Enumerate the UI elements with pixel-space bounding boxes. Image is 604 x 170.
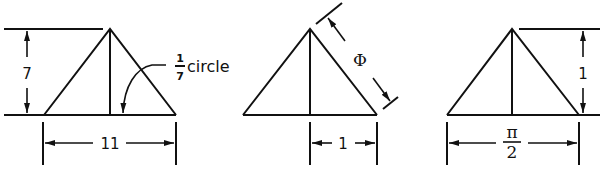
angle-note-leader — [123, 65, 166, 113]
triangle-2-slant-ext-top — [316, 3, 342, 24]
triangle-3-height-label: 1 — [578, 65, 588, 83]
triangle-2-slant-arrow-bottom — [373, 78, 390, 101]
triangle-2: Φ 1 — [243, 3, 398, 165]
triangle-1: 7 11 1 7 circle — [4, 29, 230, 165]
triangle-2-slant-label: Φ — [353, 50, 367, 70]
triangle-3: 1 π 2 — [447, 29, 600, 165]
triangle-2-width-label: 1 — [338, 135, 348, 153]
triangle-1-height-label: 7 — [22, 65, 32, 83]
angle-note-denominator: 7 — [176, 70, 184, 83]
triangle-2-slant-ext-bottom — [383, 97, 398, 109]
triangle-3-width-label-numerator: π — [506, 122, 517, 142]
triangle-3-width-label-denominator: 2 — [507, 142, 518, 162]
triangle-1-width-label: 11 — [100, 135, 119, 153]
angle-note-text: circle — [187, 57, 230, 76]
angle-note-numerator: 1 — [176, 52, 184, 65]
triangle-diagram: 7 11 1 7 circle Φ 1 — [0, 0, 604, 170]
triangle-2-slant-arrow-top — [328, 18, 345, 41]
